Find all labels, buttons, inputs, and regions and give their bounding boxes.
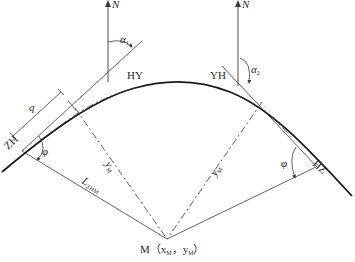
dashed-arc-left: [60, 88, 135, 126]
alpha2-label: α2: [251, 64, 260, 76]
phi-label-right: φ: [281, 158, 287, 169]
line-hz-m: [167, 167, 316, 239]
tangent-line-hz: [222, 66, 318, 168]
center-point-label: M（xM，yM）: [140, 244, 204, 256]
radius-line-left: [75, 108, 167, 239]
phi-label-left: φ: [42, 146, 48, 157]
yh-label: YH: [210, 70, 226, 81]
diagram-svg: [0, 0, 355, 262]
line-zh-m: [22, 151, 167, 239]
north-label-left: N: [112, 0, 119, 10]
q-dimension-line: [13, 92, 61, 136]
q-label: q: [29, 102, 35, 113]
phi-arc-right: [292, 147, 296, 178]
north-label-right: N: [242, 0, 249, 10]
tangent-line-zh: [22, 41, 142, 151]
hy-label: HY: [127, 70, 143, 81]
transition-curve-diagram: N N α1 α2 HY YH ZH HZ q φ φ yM yM LZHM M…: [0, 0, 355, 262]
alpha2-arc: [240, 58, 250, 83]
dashed-arc-right: [230, 92, 292, 138]
transition-curve: [2, 82, 352, 196]
alpha1-label: α1: [120, 34, 129, 46]
